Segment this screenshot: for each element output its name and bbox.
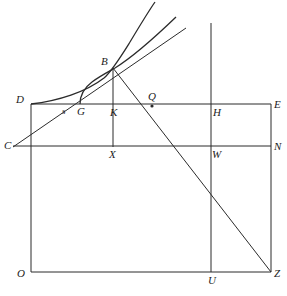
label-X: X bbox=[109, 149, 116, 160]
label-G: G bbox=[77, 106, 85, 117]
line-B-to-Z bbox=[113, 68, 271, 272]
label-Z: Z bbox=[274, 268, 280, 279]
curves bbox=[31, 2, 176, 104]
label-O: O bbox=[17, 268, 25, 279]
diagonals bbox=[13, 28, 271, 272]
label-N: N bbox=[274, 141, 281, 152]
geometry-canvas bbox=[0, 0, 287, 296]
label-H: H bbox=[213, 107, 221, 118]
geometry-figure: B D C s G K Q H E X W N O U Z bbox=[0, 0, 287, 296]
label-Q: Q bbox=[148, 91, 156, 102]
label-C: C bbox=[4, 140, 11, 151]
label-K: K bbox=[110, 107, 117, 118]
label-B: B bbox=[101, 56, 108, 67]
label-D: D bbox=[16, 94, 24, 105]
rectangle-frame bbox=[13, 104, 271, 272]
point-markers bbox=[150, 104, 153, 107]
label-W: W bbox=[212, 149, 221, 160]
vertical-lines bbox=[113, 23, 211, 272]
point-Q-dot bbox=[150, 104, 153, 107]
label-U: U bbox=[208, 275, 216, 286]
label-E: E bbox=[274, 99, 281, 110]
label-s: s bbox=[62, 107, 66, 116]
